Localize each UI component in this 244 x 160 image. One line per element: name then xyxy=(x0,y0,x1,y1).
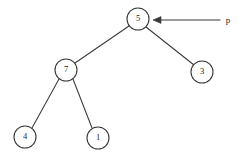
edge-root-to-right xyxy=(146,27,194,65)
tree-node-left[interactable]: 7 xyxy=(55,59,77,81)
tree-node-right[interactable]: 3 xyxy=(191,61,213,83)
edge-left-to-leftchild xyxy=(32,79,59,128)
diagram-canvas: 5 7 3 4 1 p xyxy=(0,0,244,160)
node-label-left-right: 1 xyxy=(96,132,100,142)
node-label-right: 3 xyxy=(200,66,204,76)
edge-group xyxy=(32,26,194,128)
pointer-annotation: p xyxy=(153,15,231,25)
binary-tree-diagram: 5 7 3 4 1 p xyxy=(0,0,244,160)
node-group: 5 7 3 4 1 xyxy=(14,8,213,149)
edge-left-to-rightchild xyxy=(73,79,92,128)
tree-node-left-right[interactable]: 1 xyxy=(87,127,109,149)
pointer-label-p: p xyxy=(226,15,231,25)
node-label-left: 7 xyxy=(64,64,68,74)
node-label-root: 5 xyxy=(136,13,140,23)
pointer-arrow-head xyxy=(153,17,161,24)
tree-node-root[interactable]: 5 xyxy=(127,8,149,30)
tree-node-left-left[interactable]: 4 xyxy=(14,126,36,148)
edge-root-to-left xyxy=(75,26,129,63)
